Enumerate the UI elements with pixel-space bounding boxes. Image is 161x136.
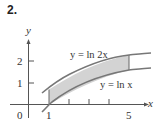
x-axis-label: x [147,97,153,109]
x-tick-label-5: 5 [126,109,132,121]
y-tick-label-1: 1 [17,77,23,89]
x-tick-label-1: 1 [46,109,52,121]
curve-label-ln-2x: y = ln 2x [70,49,108,60]
curve-label-ln-x: y = ln x [100,79,133,90]
x-tick-label-0: 0 [17,109,23,121]
figure: y x 2 1 0 1 5 y = ln 2x y = ln x [0,0,161,136]
y-axis-label: y [25,24,31,36]
y-tick-label-2: 2 [17,55,23,67]
y-axis-arrow [27,39,31,44]
